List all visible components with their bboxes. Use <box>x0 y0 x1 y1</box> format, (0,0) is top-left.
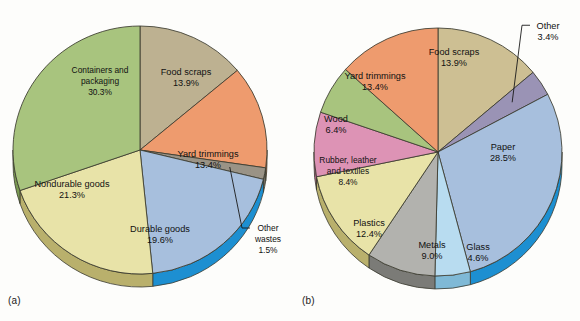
pie-label-value-yard-trimmings: 13.4% <box>362 82 388 92</box>
pie-label-value-durable-goods: 19.6% <box>147 235 173 245</box>
pie-label-name-other-wastes: wastes <box>254 234 281 244</box>
pie-label-name-other-wastes: Other <box>258 223 279 233</box>
pie-label-value-yard-trimmings: 13.4% <box>195 160 221 170</box>
pie-label-name-yard-trimmings: Yard trimmings <box>177 149 238 159</box>
pie-label-name-rubber-leather-and-textiles: and textiles <box>327 166 369 176</box>
pie-label-value-food-scraps: 13.9% <box>173 78 199 88</box>
pie-panel-a: Food scraps13.9%Yard trimmings13.4%Other… <box>0 0 290 321</box>
pie-label-name-durable-goods: Durable goods <box>130 224 190 234</box>
pie-label-value-other: 3.4% <box>538 32 559 42</box>
pie-label-value-rubber-leather-and-textiles: 8.4% <box>338 177 358 187</box>
pie-label-paper: Paper28.5% <box>490 142 516 164</box>
pie-label-name-metals: Metals <box>418 240 445 250</box>
pie-label-name-other: Other <box>537 21 560 31</box>
pie-chart-b: Food scraps13.9%Other3.4%Paper28.5%Glass… <box>290 0 580 321</box>
pie-label-value-plastics: 12.4% <box>356 229 382 239</box>
pie-panel-b: Food scraps13.9%Other3.4%Paper28.5%Glass… <box>290 0 580 321</box>
pie-label-value-other-wastes: 1.5% <box>258 245 278 255</box>
pie-label-name-wood: Wood <box>324 114 348 124</box>
pie-label-value-paper: 28.5% <box>490 153 516 163</box>
pie-label-name-containers-and-packaging: Containers and <box>72 65 129 75</box>
pie-label-name-glass: Glass <box>466 242 490 252</box>
pie-label-name-rubber-leather-and-textiles: Rubber, leather <box>319 155 376 165</box>
pie-label-name-plastics: Plastics <box>353 218 385 228</box>
pie-label-value-metals: 9.0% <box>422 251 443 261</box>
pie-label-value-nondurable-goods: 21.3% <box>59 190 85 200</box>
pie-chart-a: Food scraps13.9%Yard trimmings13.4%Other… <box>0 0 290 321</box>
pie-label-wood: Wood6.4% <box>324 114 348 136</box>
pie-label-value-food-scraps: 13.9% <box>441 58 467 68</box>
panel-caption-b: (b) <box>302 295 315 306</box>
pie-label-name-paper: Paper <box>491 142 516 152</box>
pie-label-glass: Glass4.6% <box>466 242 490 264</box>
pie-label-name-nondurable-goods: Nondurable goods <box>34 179 109 189</box>
pie-label-other: Other3.4% <box>537 21 560 43</box>
pie-label-other-wastes: Otherwastes1.5% <box>254 223 281 255</box>
panel-caption-a: (a) <box>8 295 21 306</box>
pie-label-name-containers-and-packaging: packaging <box>81 76 120 86</box>
pie-label-plastics: Plastics12.4% <box>353 218 385 240</box>
pie-label-metals: Metals9.0% <box>418 240 445 262</box>
figure-canvas: Food scraps13.9%Yard trimmings13.4%Other… <box>0 0 580 321</box>
pie-label-value-containers-and-packaging: 30.3% <box>88 87 112 97</box>
pie-label-name-food-scraps: Food scraps <box>429 47 480 57</box>
pie-label-name-food-scraps: Food scraps <box>161 67 212 77</box>
pie-label-name-yard-trimmings: Yard trimmings <box>344 71 405 81</box>
pie-label-value-wood: 6.4% <box>326 125 347 135</box>
pie-label-value-glass: 4.6% <box>468 253 489 263</box>
